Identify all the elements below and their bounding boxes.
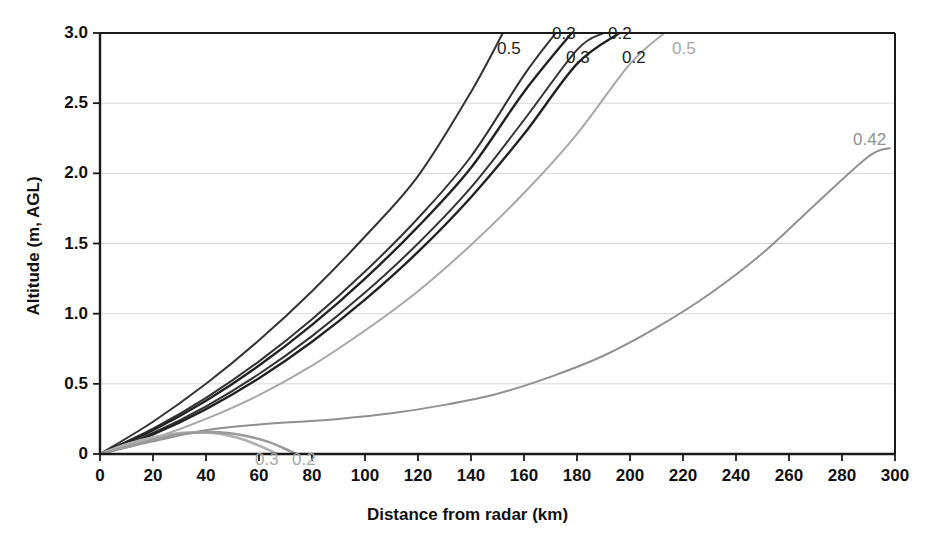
beam-label-gray-042: 0.42 — [853, 130, 886, 150]
beam-label-dark-03-upper: 0.3 — [552, 24, 576, 44]
beam-curve-6 — [100, 148, 890, 454]
beam-label-dark-02-upper: 0.2 — [608, 24, 632, 44]
radar-beam-propagation-chart: Altitude (m, AGL) Distance from radar (k… — [0, 0, 935, 550]
beam-label-dark-02-lower: 0.2 — [622, 48, 646, 68]
plot-canvas — [0, 0, 935, 550]
beam-label-gray-02-ground: 0.2 — [292, 450, 316, 470]
beam-curve-7 — [100, 432, 278, 454]
beam-label-gray-03-ground: 0.3 — [255, 450, 279, 470]
beam-label-dark-05: 0.5 — [497, 39, 521, 59]
beam-label-dark-03-lower: 0.3 — [566, 48, 590, 68]
beam-label-gray-05: 0.5 — [672, 39, 696, 59]
